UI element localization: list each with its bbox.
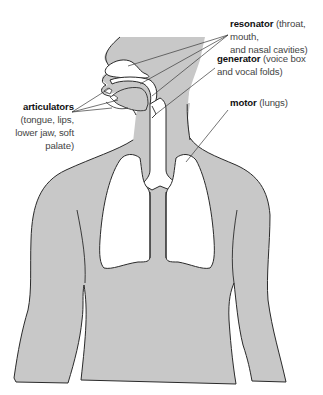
label-articulators: articulators (tongue, lips, lower jaw, s… <box>4 100 74 152</box>
label-generator-desc-2: and vocal folds) <box>217 65 306 78</box>
label-resonator: resonator (throat, mouth, and nasal cavi… <box>230 17 323 56</box>
label-generator-desc-1: (voice box <box>263 53 306 64</box>
label-motor-term: motor <box>230 97 257 108</box>
label-generator: generator (voice box and vocal folds) <box>217 52 306 78</box>
label-articulators-desc-3: palate) <box>4 139 74 152</box>
label-motor: motor (lungs) <box>230 96 288 109</box>
label-articulators-term: articulators <box>4 100 74 113</box>
label-articulators-desc-1: (tongue, lips, <box>4 113 74 126</box>
label-motor-desc: (lungs) <box>259 97 288 108</box>
label-resonator-term: resonator <box>230 18 273 29</box>
label-generator-term: generator <box>217 53 260 64</box>
label-articulators-desc-2: lower jaw, soft <box>4 126 74 139</box>
